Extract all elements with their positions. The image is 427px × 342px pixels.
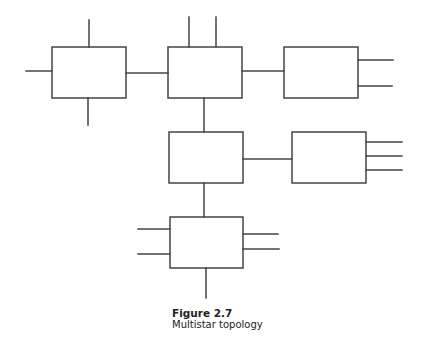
figure-caption-text: Multistar topology [172,319,263,331]
hub-6-box [170,217,243,268]
hub-1-box [52,47,126,98]
hub-3-box [284,47,358,98]
hub-5-box [292,132,366,183]
hub-2-box [168,47,242,98]
hub-4-box [169,132,243,183]
multistar-topology-diagram [0,0,427,342]
figure-number: Figure 2.7 [172,307,263,319]
figure-caption: Figure 2.7 Multistar topology [172,307,263,331]
